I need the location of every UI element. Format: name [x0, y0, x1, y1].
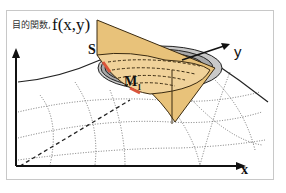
dashed-line — [20, 100, 130, 166]
figure-title-japanese: 目的関数, — [12, 21, 51, 30]
cutting-plane — [97, 20, 215, 124]
figure-title-function: f(x,y) — [52, 16, 90, 33]
x-axis-label: x — [241, 163, 248, 177]
point-label-s: S — [88, 43, 96, 57]
y-axis-label: y — [234, 44, 242, 59]
point-label-m-subscript: 1 — [137, 83, 141, 92]
point-label-m1: M1 — [124, 75, 141, 92]
point-label-m: M — [124, 74, 137, 89]
